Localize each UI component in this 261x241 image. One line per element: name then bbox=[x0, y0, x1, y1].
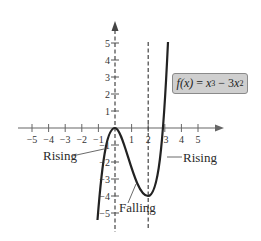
x-tick-label: −5 bbox=[27, 134, 38, 145]
y-tick-label: −2 bbox=[99, 157, 110, 168]
function-label-box: f(x) = x3 − 3x2 bbox=[172, 73, 248, 94]
rising-left-label: Rising bbox=[43, 148, 77, 164]
y-tick-label: 2 bbox=[105, 89, 110, 100]
y-tick-label: 5 bbox=[105, 38, 110, 49]
x-tick-label: −4 bbox=[43, 134, 54, 145]
term-x-squared-exponent: 2 bbox=[239, 79, 243, 88]
x-tick-label: 4 bbox=[179, 134, 184, 145]
falling-label: Falling bbox=[119, 200, 156, 216]
x-tick-label: 2 bbox=[146, 134, 151, 145]
x-axis-arrow-icon bbox=[215, 125, 224, 132]
rising-right-label: Rising bbox=[183, 150, 217, 166]
y-tick-label: 1 bbox=[105, 106, 110, 117]
y-tick-label: 4 bbox=[105, 55, 110, 66]
x-tick-label: 1 bbox=[129, 134, 134, 145]
x-tick-label: 3 bbox=[164, 134, 169, 145]
x-tick-label: 5 bbox=[196, 134, 201, 145]
x-tick-label: −3 bbox=[60, 134, 71, 145]
x-tick-label: −2 bbox=[76, 134, 87, 145]
y-axis-arrow-icon bbox=[112, 21, 119, 31]
function-name: f(x) bbox=[177, 76, 194, 91]
y-tick-label: −5 bbox=[99, 208, 110, 219]
minus-three: − 3 bbox=[215, 76, 234, 91]
equals-sign: = bbox=[193, 76, 206, 91]
y-tick-label: 3 bbox=[105, 72, 110, 83]
y-tick-label: −1 bbox=[99, 140, 110, 151]
y-tick-label: −3 bbox=[99, 174, 110, 185]
y-tick-label: −4 bbox=[99, 191, 110, 202]
